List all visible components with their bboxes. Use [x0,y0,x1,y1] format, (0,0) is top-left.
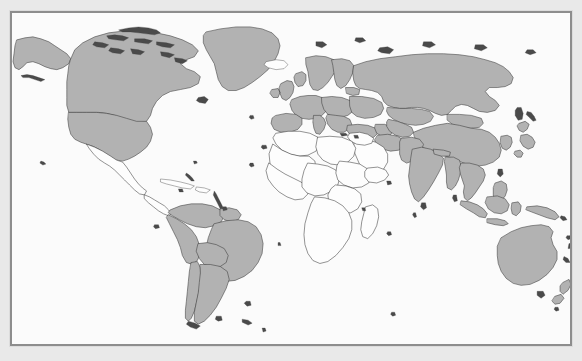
country-iberia[interactable] [271,113,302,132]
world-map-svg[interactable] [11,12,571,345]
world-map-figure [0,0,582,361]
island-jamaica [178,189,183,192]
map-panel [10,11,572,346]
